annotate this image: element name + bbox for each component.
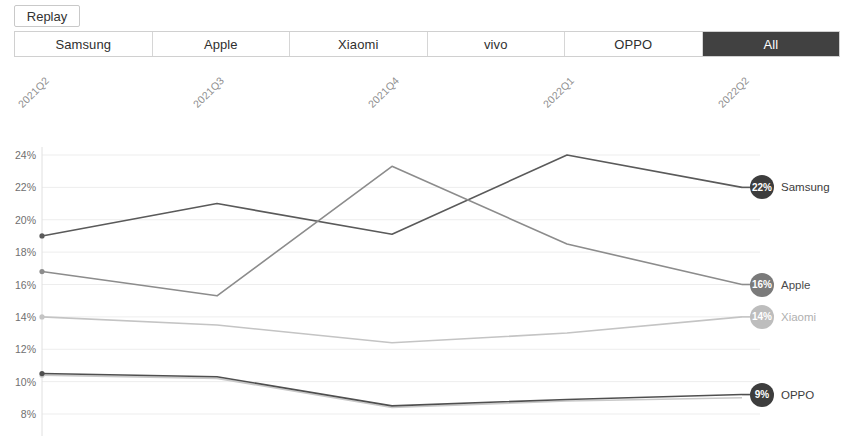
end-label-samsung[interactable]: 22%Samsung <box>750 175 830 199</box>
end-label-oppo[interactable]: 9%OPPO <box>750 383 814 407</box>
series-line-oppo[interactable] <box>42 374 742 406</box>
replay-button[interactable]: Replay <box>14 5 80 27</box>
tab-samsung[interactable]: Samsung <box>15 32 153 56</box>
end-series-name: Samsung <box>781 181 830 193</box>
end-series-name: Xiaomi <box>781 311 816 323</box>
series-start-dot-xiaomi <box>39 314 44 319</box>
end-series-name: Apple <box>781 279 810 291</box>
series-line-vivo[interactable] <box>42 375 742 407</box>
end-label-apple[interactable]: 16%Apple <box>750 273 810 297</box>
market-share-line-chart: 2021Q22021Q32021Q42022Q12022Q2 24%22%20%… <box>0 60 855 438</box>
tab-all[interactable]: All <box>703 32 840 56</box>
end-series-name: OPPO <box>781 389 814 401</box>
end-label-xiaomi[interactable]: 14%Xiaomi <box>750 305 816 329</box>
series-start-dot-samsung <box>39 233 44 238</box>
end-value-badge: 22% <box>750 175 774 199</box>
end-value-badge: 14% <box>750 305 774 329</box>
tab-xiaomi[interactable]: Xiaomi <box>290 32 428 56</box>
series-line-apple[interactable] <box>42 166 742 295</box>
series-line-xiaomi[interactable] <box>42 317 742 343</box>
series-start-dot-oppo <box>39 371 44 376</box>
plot-canvas <box>0 60 855 438</box>
brand-tab-strip: SamsungAppleXiaomivivoOPPOAll <box>14 31 840 57</box>
tab-oppo[interactable]: OPPO <box>565 32 703 56</box>
end-value-badge: 9% <box>750 383 774 407</box>
tab-vivo[interactable]: vivo <box>428 32 566 56</box>
end-value-badge: 16% <box>750 273 774 297</box>
tab-apple[interactable]: Apple <box>153 32 291 56</box>
series-start-dot-apple <box>39 269 44 274</box>
